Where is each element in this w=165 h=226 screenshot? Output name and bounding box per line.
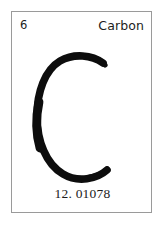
- atomic-mass: 12. 01078: [12, 186, 153, 202]
- atomic-number: 6: [20, 19, 27, 32]
- element-card: 6 Carbon 12. 01078: [11, 11, 152, 213]
- element-symbol: [12, 40, 153, 183]
- card-header: 6 Carbon: [12, 12, 153, 42]
- element-symbol-letter-c-icon: [12, 40, 153, 183]
- element-name: Carbon: [98, 19, 144, 32]
